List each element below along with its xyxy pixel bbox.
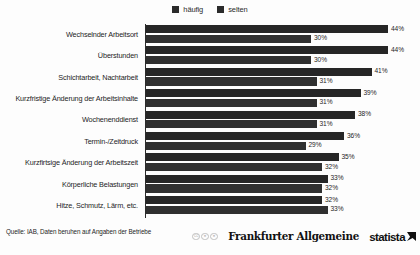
bar-wrapper: 30% bbox=[146, 56, 420, 64]
bar-wrapper: 32% bbox=[146, 196, 420, 204]
bar-wrapper: 32% bbox=[146, 184, 420, 192]
bar-value-label: 38% bbox=[358, 110, 371, 119]
chart-row: Wechselnder Arbeitsort44%30% bbox=[0, 24, 420, 45]
bar-wrapper: 31% bbox=[146, 120, 420, 128]
bar-group: 41%31% bbox=[146, 68, 420, 88]
category-label: Termin-/Zeitdruck bbox=[0, 131, 141, 152]
bar-value-label: 30% bbox=[314, 56, 327, 65]
bar-value-label: 39% bbox=[364, 89, 377, 98]
bar-wrapper: 44% bbox=[146, 25, 420, 33]
legend-label-haeufig: häufig bbox=[183, 6, 203, 14]
bar-value-label: 44% bbox=[391, 25, 404, 34]
statista-logo: statista bbox=[369, 231, 416, 243]
chart-row: Hitze, Schmutz, Lärm, etc.32%33% bbox=[0, 195, 420, 216]
chart-row: Kurzfirtsige Änderung der Arbeitszeit35%… bbox=[0, 152, 420, 173]
bar-wrapper: 36% bbox=[146, 132, 420, 140]
legend-swatch-haeufig bbox=[172, 6, 179, 13]
bar-group: 44%30% bbox=[146, 25, 420, 45]
chart-legend: häufig selten bbox=[0, 6, 420, 14]
category-label: Schichtarbeit, Nachtarbeit bbox=[0, 67, 141, 88]
bar-value-label: 36% bbox=[347, 132, 360, 141]
bar-group: 38%31% bbox=[146, 111, 420, 131]
bar-wrapper: 35% bbox=[146, 153, 420, 161]
bar-häufig bbox=[146, 46, 388, 54]
bar-value-label: 30% bbox=[314, 34, 327, 43]
bar-value-label: 33% bbox=[331, 174, 344, 183]
bar-selten bbox=[146, 142, 306, 150]
bar-value-label: 44% bbox=[391, 46, 404, 55]
chart-row: Wochenenddienst38%31% bbox=[0, 110, 420, 131]
bar-value-label: 32% bbox=[325, 184, 338, 193]
legend-label-selten: selten bbox=[228, 6, 247, 14]
chart-row: Körperliche Belastungen33%32% bbox=[0, 174, 420, 195]
legend-item-haeufig: häufig bbox=[172, 6, 203, 14]
bar-group: 39%31% bbox=[146, 89, 420, 109]
bar-wrapper: 29% bbox=[146, 142, 420, 150]
category-label: Körperliche Belastungen bbox=[0, 174, 141, 195]
plot-area: Wechselnder Arbeitsort44%30%Überstunden4… bbox=[0, 24, 420, 220]
category-label: Wechselnder Arbeitsort bbox=[0, 24, 141, 45]
bar-selten bbox=[146, 77, 317, 85]
bar-häufig bbox=[146, 175, 328, 183]
category-label: Kurzfristige Änderung der Arbeitsinhalte bbox=[0, 88, 141, 109]
creative-commons-icons: cc ● ● bbox=[192, 233, 218, 241]
chart-row: Termin-/Zeitdruck36%29% bbox=[0, 131, 420, 152]
bar-häufig bbox=[146, 153, 339, 161]
bar-group: 35%32% bbox=[146, 153, 420, 173]
chart-row: Überstunden44%30% bbox=[0, 45, 420, 66]
bar-wrapper: 33% bbox=[146, 206, 420, 214]
bar-group: 36%29% bbox=[146, 132, 420, 152]
chart-row: Kurzfristige Änderung der Arbeitsinhalte… bbox=[0, 88, 420, 109]
bar-häufig bbox=[146, 111, 355, 119]
bar-wrapper: 30% bbox=[146, 35, 420, 43]
bar-wrapper: 39% bbox=[146, 89, 420, 97]
bar-wrapper: 33% bbox=[146, 175, 420, 183]
statista-mark-icon bbox=[407, 232, 416, 241]
bar-selten bbox=[146, 99, 317, 107]
cc-nd-icon: ● bbox=[210, 233, 218, 241]
bar-selten bbox=[146, 120, 317, 128]
bar-wrapper: 31% bbox=[146, 77, 420, 85]
bar-selten bbox=[146, 35, 311, 43]
bar-value-label: 32% bbox=[325, 163, 338, 172]
bar-group: 32%33% bbox=[146, 196, 420, 216]
bar-value-label: 33% bbox=[331, 205, 344, 214]
bar-value-label: 31% bbox=[320, 98, 333, 107]
frankfurter-allgemeine-logo: Frankfurter Allgemeine bbox=[228, 230, 359, 243]
legend-swatch-selten bbox=[217, 6, 224, 13]
category-label: Hitze, Schmutz, Lärm, etc. bbox=[0, 195, 141, 216]
category-label: Kurzfirtsige Änderung der Arbeitszeit bbox=[0, 152, 141, 173]
source-note: Quelle: IAB, Daten beruhen auf Angaben d… bbox=[6, 228, 151, 235]
chart-row: Schichtarbeit, Nachtarbeit41%31% bbox=[0, 67, 420, 88]
bar-value-label: 31% bbox=[320, 120, 333, 129]
bar-häufig bbox=[146, 196, 322, 204]
bar-value-label: 35% bbox=[342, 153, 355, 162]
bar-häufig bbox=[146, 89, 361, 97]
footer-branding: cc ● ● Frankfurter Allgemeine statista bbox=[192, 230, 416, 243]
bar-wrapper: 31% bbox=[146, 99, 420, 107]
bar-häufig bbox=[146, 25, 388, 33]
bar-wrapper: 41% bbox=[146, 68, 420, 76]
bar-value-label: 32% bbox=[325, 196, 338, 205]
bar-group: 33%32% bbox=[146, 175, 420, 195]
bar-selten bbox=[146, 56, 311, 64]
legend-item-selten: selten bbox=[217, 6, 247, 14]
bar-value-label: 31% bbox=[320, 77, 333, 86]
bar-group: 44%30% bbox=[146, 46, 420, 66]
cc-license-icon: cc bbox=[192, 233, 200, 241]
category-label: Wochenenddienst bbox=[0, 110, 141, 131]
bar-value-label: 29% bbox=[309, 141, 322, 150]
bar-wrapper: 38% bbox=[146, 111, 420, 119]
bar-value-label: 41% bbox=[375, 67, 388, 76]
bar-häufig bbox=[146, 68, 372, 76]
bar-selten bbox=[146, 184, 322, 192]
bar-wrapper: 44% bbox=[146, 46, 420, 54]
cc-by-icon: ● bbox=[201, 233, 209, 241]
bar-selten bbox=[146, 206, 328, 214]
bar-selten bbox=[146, 163, 322, 171]
statista-wordmark: statista bbox=[369, 231, 405, 243]
bar-wrapper: 32% bbox=[146, 163, 420, 171]
bar-häufig bbox=[146, 132, 344, 140]
chart-container: häufig selten Wechselnder Arbeitsort44%3… bbox=[0, 0, 420, 255]
category-label: Überstunden bbox=[0, 45, 141, 66]
